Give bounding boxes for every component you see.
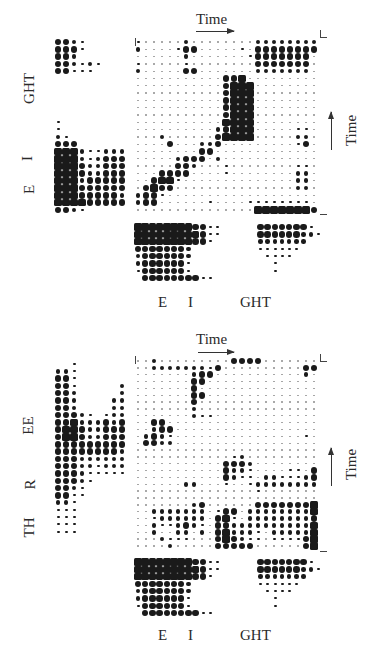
matrix-cell [241, 415, 242, 416]
matrix-cell [160, 537, 165, 542]
matrix-cell [273, 187, 274, 188]
matrix-cell [201, 209, 202, 210]
matrix-cell [289, 415, 290, 416]
matrix-cell [63, 478, 70, 485]
matrix-cell [287, 574, 292, 579]
matrix-cell [230, 111, 238, 119]
matrix-cell [215, 134, 222, 141]
matrix-cell [280, 509, 285, 514]
matrix-cell [65, 516, 68, 518]
matrix-cell [273, 545, 274, 546]
matrix-cell [304, 482, 309, 487]
matrix-cell [62, 184, 70, 192]
matrix-cell [178, 603, 185, 610]
matrix-cell [289, 367, 290, 368]
matrix-cell [223, 90, 230, 97]
matrix-cell [96, 157, 101, 162]
matrix-cell [57, 516, 60, 518]
matrix-cell [217, 415, 218, 416]
matrix-cell [96, 164, 101, 169]
matrix-cell [103, 441, 110, 448]
matrix-cell [55, 46, 62, 53]
matrix-cell [112, 464, 117, 469]
matrix-cell [223, 474, 230, 481]
matrix-cell [265, 114, 266, 115]
matrix-cell [137, 165, 138, 166]
matrix-cell [177, 122, 178, 123]
matrix-cell [281, 78, 282, 79]
corner-tick [320, 37, 327, 38]
matrix-cell [72, 54, 77, 59]
matrix-cell [177, 415, 178, 416]
matrix-cell [273, 381, 274, 382]
matrix-cell [289, 107, 290, 108]
matrix-cell [222, 119, 230, 127]
matrix-cell [193, 92, 194, 93]
matrix-cell [241, 56, 242, 57]
matrix-cell [137, 374, 138, 375]
matrix-cell [89, 158, 92, 160]
matrix-cell [225, 436, 226, 437]
matrix-cell [137, 484, 138, 485]
matrix-cell [193, 490, 194, 491]
matrix-cell [177, 395, 178, 396]
matrix-cell [119, 163, 126, 170]
matrix-cell [313, 114, 314, 115]
matrix-cell [73, 509, 76, 511]
matrix-cell [103, 426, 110, 433]
matrix-cell [209, 518, 210, 519]
matrix-cell [281, 187, 282, 188]
matrix-cell [265, 129, 266, 130]
matrix-cell [70, 192, 78, 200]
matrix-cell [272, 69, 277, 74]
matrix-cell [145, 100, 146, 101]
matrix-cell [137, 415, 138, 416]
matrix-cell [279, 61, 286, 68]
matrix-cell [225, 202, 226, 203]
matrix-cell [209, 209, 210, 210]
matrix-cell [56, 500, 61, 505]
bottom-label-ght: GHT [240, 627, 271, 644]
matrix-cell [169, 85, 170, 86]
matrix-cell [238, 119, 246, 127]
matrix-cell [233, 63, 234, 64]
matrix-cell [145, 525, 146, 526]
matrix-cell [153, 456, 154, 457]
matrix-cell [55, 405, 62, 412]
matrix-cell [156, 246, 163, 253]
matrix-cell [313, 408, 314, 409]
matrix-cell [161, 41, 162, 42]
matrix-cell [209, 49, 210, 50]
matrix-cell [265, 443, 266, 444]
matrix-cell [177, 497, 178, 498]
matrix-cell [271, 53, 278, 60]
matrix-cell [313, 415, 314, 416]
matrix-cell [185, 558, 193, 566]
matrix-cell [279, 224, 286, 231]
matrix-cell [209, 367, 212, 369]
matrix-cell [297, 443, 298, 444]
matrix-cell [233, 504, 234, 505]
matrix-cell [257, 92, 258, 93]
matrix-cell [145, 374, 146, 375]
matrix-cell [200, 224, 207, 231]
matrix-cell [272, 482, 277, 487]
matrix-cell [209, 568, 212, 570]
matrix-cell [241, 401, 242, 402]
matrix-cell [145, 92, 146, 93]
matrix-cell [225, 180, 226, 181]
matrix-cell [257, 180, 258, 181]
matrix-cell [177, 504, 178, 505]
matrix-cell [304, 171, 309, 176]
matrix-cell [201, 449, 202, 450]
matrix-cell [97, 150, 100, 152]
matrix-cell [273, 85, 274, 86]
matrix-cell [313, 144, 314, 145]
matrix-cell [264, 475, 269, 480]
matrix-cell [137, 41, 140, 43]
matrix-cell [169, 395, 170, 396]
matrix-cell [297, 538, 300, 540]
matrix-cell [274, 255, 277, 257]
matrix-cell [256, 69, 261, 74]
matrix-cell [63, 419, 70, 426]
